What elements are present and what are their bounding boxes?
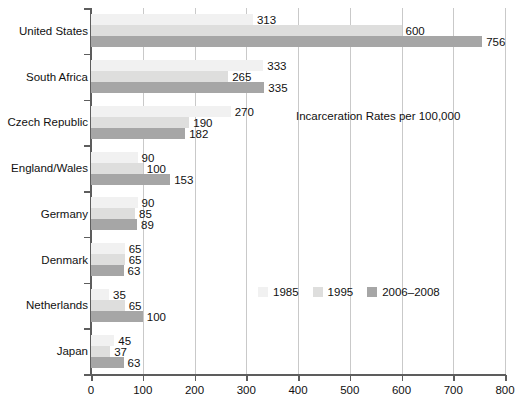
bar[interactable]: [91, 289, 109, 300]
bar[interactable]: [91, 14, 253, 25]
x-axis-label-500: 500: [340, 384, 359, 396]
y-axis-tick: [84, 328, 91, 330]
y-axis-tick: [84, 374, 91, 376]
x-axis-tick-500: [350, 375, 352, 381]
gridline-600: [402, 8, 403, 375]
bar[interactable]: [91, 82, 264, 93]
y-axis-tick: [84, 8, 91, 10]
incarceration-rates-bar-chart: United StatesSouth AfricaCzech RepublicE…: [0, 0, 527, 405]
y-axis-tick: [84, 237, 91, 239]
category-label-text: England/Wales: [2, 162, 88, 174]
bar[interactable]: [91, 106, 231, 117]
y-axis-tick: [84, 100, 91, 102]
legend-label-1995: 1995: [328, 286, 354, 298]
x-axis-tick-400: [298, 375, 300, 381]
bar-value-label: 333: [267, 61, 286, 72]
x-axis-tick-700: [453, 375, 455, 381]
category-label-text: South Africa: [2, 71, 88, 83]
bar[interactable]: [91, 300, 125, 311]
x-axis-tick-300: [246, 375, 248, 381]
bar-value-label: 45: [118, 336, 131, 347]
bar[interactable]: [91, 163, 143, 174]
bar-value-label: 182: [189, 129, 208, 140]
bar[interactable]: [91, 152, 138, 163]
bar-value-label: 100: [147, 312, 166, 323]
x-axis-label-400: 400: [288, 384, 307, 396]
bar[interactable]: [91, 357, 124, 368]
bar[interactable]: [91, 265, 124, 276]
bar[interactable]: [91, 71, 228, 82]
category-label-text: Czech Republic: [2, 116, 88, 128]
bar[interactable]: [91, 197, 138, 208]
legend-swatch-2006-2008-icon: [367, 287, 377, 297]
gridline-700: [453, 8, 454, 375]
bar[interactable]: [91, 25, 402, 36]
x-axis-tick-800: [505, 375, 507, 381]
bar[interactable]: [91, 60, 263, 71]
x-axis-tick-100: [143, 375, 145, 381]
legend-swatch-1995-icon: [313, 287, 323, 297]
x-axis-tick-600: [402, 375, 404, 381]
bar[interactable]: [91, 243, 125, 254]
bar[interactable]: [91, 346, 110, 357]
bar-value-label: 153: [174, 175, 193, 186]
category-label-text: United States: [2, 25, 88, 37]
bar[interactable]: [91, 36, 482, 47]
x-axis-tick-200: [195, 375, 197, 381]
legend-swatch-1985-icon: [258, 287, 268, 297]
bar[interactable]: [91, 174, 170, 185]
chart-title: Incarceration Rates per 100,000: [296, 110, 460, 123]
gridline-800: [505, 8, 506, 375]
bar-value-label: 63: [128, 266, 141, 277]
legend-item-2006-2008[interactable]: 2006–2008: [367, 286, 440, 298]
bar-value-label: 270: [235, 107, 254, 118]
legend-label-1985: 1985: [273, 286, 299, 298]
category-label-text: Netherlands: [2, 299, 88, 311]
legend-item-1985[interactable]: 1985: [258, 286, 299, 298]
x-axis-label-0: 0: [88, 384, 94, 396]
category-label-text: Denmark: [2, 254, 88, 266]
bar-value-label: 335: [268, 83, 287, 94]
legend-item-1995[interactable]: 1995: [313, 286, 354, 298]
gridline-400: [298, 8, 299, 375]
x-axis-label-600: 600: [392, 384, 411, 396]
legend-label-2006-2008: 2006–2008: [382, 286, 440, 298]
x-axis-label-700: 700: [444, 384, 463, 396]
y-axis-tick: [84, 191, 91, 193]
x-axis-label-800: 800: [495, 384, 514, 396]
x-axis-tick-0: [91, 375, 93, 381]
x-axis-label-200: 200: [185, 384, 204, 396]
y-axis-tick: [84, 54, 91, 56]
bar[interactable]: [91, 254, 125, 265]
bar-value-label: 63: [128, 358, 141, 369]
y-axis-tick: [84, 145, 91, 147]
category-label-text: Japan: [2, 345, 88, 357]
bar[interactable]: [91, 117, 189, 128]
bar[interactable]: [91, 335, 114, 346]
x-axis-label-300: 300: [237, 384, 256, 396]
bar[interactable]: [91, 219, 137, 230]
bar[interactable]: [91, 311, 143, 322]
bar[interactable]: [91, 128, 185, 139]
legend: 1985 1995 2006–2008: [258, 286, 440, 298]
category-label-text: Germany: [2, 208, 88, 220]
bar-value-label: 89: [141, 220, 154, 231]
y-axis-tick: [84, 283, 91, 285]
bar-value-label: 756: [486, 37, 505, 48]
bar-value-label: 90: [142, 153, 155, 164]
gridline-500: [350, 8, 351, 375]
x-axis-label-100: 100: [133, 384, 152, 396]
bar[interactable]: [91, 208, 135, 219]
